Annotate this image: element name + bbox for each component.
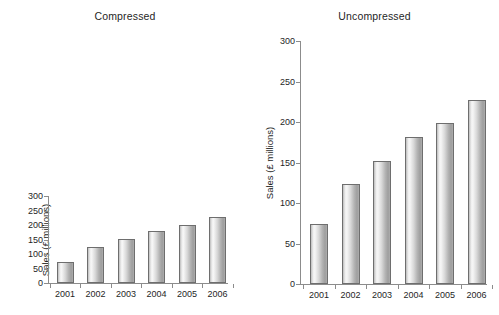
x-tick-mark [111, 284, 112, 288]
x-tick-mark [335, 285, 336, 289]
x-tick-label: 2006 [207, 290, 227, 299]
x-tick-mark [303, 285, 304, 289]
y-tick-mark [296, 244, 300, 245]
y-tick-mark [296, 82, 300, 83]
y-tick-mark [296, 122, 300, 123]
x-tick-label: 2004 [146, 290, 166, 299]
x-tick-mark [233, 284, 234, 288]
x-tick-label: 2001 [309, 291, 329, 300]
y-tick-mark [296, 163, 300, 164]
y-tick-mark [44, 254, 48, 255]
x-tick-mark [492, 285, 493, 289]
panel-compressed: Compressed Sales (£ millions) 0501001502… [0, 0, 250, 315]
x-tick-label: 2004 [403, 291, 423, 300]
bar-uncompressed-2004 [405, 137, 423, 284]
y-tick-label: 300 [280, 37, 295, 46]
y-tick-mark [44, 283, 48, 284]
y-tick-mark [296, 41, 300, 42]
bar-compressed-2006 [209, 217, 226, 283]
x-tick-label: 2005 [177, 290, 197, 299]
x-tick-label: 2002 [85, 290, 105, 299]
x-axis-line-uncompressed [300, 284, 487, 285]
x-axis-line-compressed [48, 283, 228, 284]
x-tick-mark [398, 285, 399, 289]
bar-compressed-2003 [118, 239, 135, 283]
y-tick-mark [44, 211, 48, 212]
bar-compressed-2005 [179, 225, 196, 283]
y-tick-mark [44, 196, 48, 197]
panel-title-compressed: Compressed [0, 10, 250, 22]
y-tick-mark [296, 284, 300, 285]
y-tick-label: 300 [28, 192, 43, 201]
bar-uncompressed-2006 [468, 100, 486, 284]
x-tick-label: 2006 [466, 291, 486, 300]
y-axis-line-compressed [48, 196, 49, 284]
y-axis-line-uncompressed [300, 41, 301, 285]
x-tick-mark [141, 284, 142, 288]
bar-compressed-2002 [87, 247, 104, 283]
bar-uncompressed-2002 [342, 184, 360, 284]
y-tick-label: 0 [290, 280, 295, 289]
y-tick-label: 100 [28, 250, 43, 259]
y-tick-label: 200 [280, 118, 295, 127]
x-tick-mark [172, 284, 173, 288]
x-tick-mark [366, 285, 367, 289]
figure-two-panel-bar-charts: Compressed Sales (£ millions) 0501001502… [0, 0, 499, 315]
x-tick-mark [429, 285, 430, 289]
y-tick-label: 50 [33, 264, 43, 273]
y-tick-label: 50 [285, 239, 295, 248]
bar-uncompressed-2005 [436, 123, 454, 284]
x-tick-label: 2001 [55, 290, 75, 299]
y-tick-label: 200 [28, 221, 43, 230]
x-tick-mark [80, 284, 81, 288]
y-tick-mark [296, 203, 300, 204]
y-tick-mark [44, 225, 48, 226]
plot-area-compressed: Sales (£ millions) 050100150200250300 20… [48, 196, 228, 284]
x-tick-label: 2002 [340, 291, 360, 300]
y-axis-label-uncompressed: Sales (£ millions) [265, 115, 275, 211]
bar-compressed-2001 [57, 262, 74, 283]
panel-title-uncompressed: Uncompressed [250, 10, 499, 22]
x-tick-label: 2005 [435, 291, 455, 300]
y-tick-label: 250 [280, 77, 295, 86]
y-tick-label: 250 [28, 206, 43, 215]
y-tick-mark [44, 240, 48, 241]
plot-area-uncompressed: Sales (£ millions) 050100150200250300 20… [300, 41, 487, 285]
y-tick-label: 0 [38, 279, 43, 288]
x-tick-mark [461, 285, 462, 289]
bar-uncompressed-2001 [310, 224, 328, 284]
y-tick-label: 100 [280, 199, 295, 208]
x-tick-label: 2003 [116, 290, 136, 299]
bar-uncompressed-2003 [373, 161, 391, 284]
x-tick-mark [50, 284, 51, 288]
panel-uncompressed: Uncompressed Sales (£ millions) 05010015… [250, 0, 499, 315]
x-tick-mark [202, 284, 203, 288]
y-tick-mark [44, 269, 48, 270]
y-tick-label: 150 [280, 158, 295, 167]
y-tick-label: 150 [28, 235, 43, 244]
x-tick-label: 2003 [372, 291, 392, 300]
bar-compressed-2004 [148, 231, 165, 283]
